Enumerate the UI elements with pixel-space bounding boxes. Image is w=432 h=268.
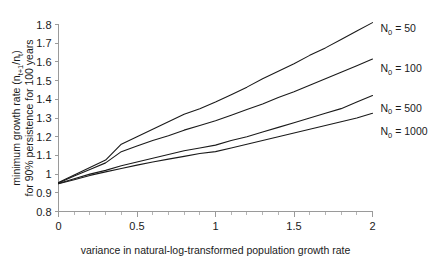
series-line-2 [59,96,373,184]
y-tick-label: 1.6 [36,56,51,68]
y-tick-label: 1.5 [36,75,51,87]
y-tick-label: 1.2 [36,131,51,143]
y-tick-label: 0.8 [36,206,51,218]
series-label-3: N0 = 1000 [381,125,428,140]
chart-root: 0.80.911.11.21.31.41.51.61.71.800.511.52… [0,0,432,268]
x-tick-label: 2 [369,220,375,232]
y-tick-label: 1.1 [36,149,51,161]
y-tick-label: 1.8 [36,19,51,31]
minimum-growth-rate-chart: 0.80.911.11.21.31.41.51.61.71.800.511.52… [0,0,432,268]
y-tick-label: 1.4 [36,93,51,105]
x-tick-label: 1 [212,220,218,232]
y-tick-label: 1.3 [36,112,51,124]
y-tick-label: 0.9 [36,187,51,199]
series-label-0: N0 = 50 [381,22,417,37]
series-line-1 [59,59,373,183]
y-axis-title-line2: for 90% persistence for 100 years [23,40,35,197]
x-tick-label: 0 [55,220,61,232]
series-line-3 [59,113,373,183]
x-axis-title: variance in natural-log-transformed popu… [81,244,351,256]
series-label-1: N0 = 100 [381,62,422,77]
y-tick-label: 1.7 [36,37,51,49]
x-tick-label: 0.5 [129,220,144,232]
series-line-0 [59,23,373,183]
series-label-2: N0 = 500 [381,102,422,117]
y-tick-label: 1 [45,168,51,180]
x-tick-label: 1.5 [286,220,301,232]
